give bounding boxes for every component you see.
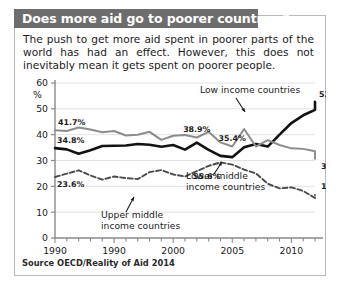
annotation-upper-middle-line2: income countries bbox=[101, 220, 180, 231]
y-tick-label: 20 bbox=[36, 181, 48, 192]
annotation-upper-middle: Upper middle bbox=[101, 209, 163, 220]
y-tick-label: 10 bbox=[36, 207, 48, 218]
y-tick-label: 30 bbox=[36, 155, 48, 166]
x-tick-label: 1990 bbox=[43, 245, 67, 256]
y-axis-unit-label: % bbox=[33, 89, 42, 100]
annotation-lower-middle: Lower middle bbox=[186, 170, 248, 181]
data-point-label: 38.9% bbox=[183, 125, 210, 134]
source-note: Source OECD/Reality of Aid 2014 bbox=[22, 258, 175, 268]
data-point-label: 16.7% bbox=[321, 182, 326, 191]
data-point-label: 52.7% bbox=[319, 90, 326, 99]
annotation-lower-middle-line2: income countries bbox=[186, 181, 265, 192]
y-tick-label: 40 bbox=[36, 129, 48, 140]
chart-x-axis: 19901990200020052010 bbox=[43, 238, 323, 256]
x-tick-label: 2010 bbox=[280, 245, 304, 256]
data-point-label: 30.7% bbox=[321, 162, 326, 171]
x-tick-label: 1990 bbox=[102, 245, 126, 256]
chart-series-group bbox=[55, 102, 315, 198]
annotation-low-income: Low income countries bbox=[200, 84, 300, 95]
figure-container: Does more aid go to poorer countries? Th… bbox=[0, 0, 343, 291]
data-point-label: 23.6% bbox=[57, 180, 84, 189]
figure-title-bar: Does more aid go to poorer countries? bbox=[14, 9, 258, 28]
chart-line bbox=[55, 162, 315, 198]
line-chart: 0102030405060% 19901990200020052010 41.7… bbox=[14, 66, 326, 256]
y-tick-label: 50 bbox=[36, 103, 48, 114]
x-tick-label: 2005 bbox=[220, 245, 244, 256]
chart-y-axis: 0102030405060% bbox=[33, 77, 55, 243]
data-point-label: 35.4% bbox=[219, 134, 246, 143]
y-tick-label: 0 bbox=[42, 232, 48, 243]
x-tick-label: 2000 bbox=[161, 245, 185, 256]
page-title: Does more aid go to poorer countries? bbox=[22, 11, 290, 26]
data-point-label: 41.7% bbox=[58, 118, 85, 127]
chart-annotations: Low income countriesLower middleincome c… bbox=[101, 84, 300, 231]
y-tick-label: 60 bbox=[36, 77, 48, 88]
data-point-label: 34.8% bbox=[57, 136, 84, 145]
